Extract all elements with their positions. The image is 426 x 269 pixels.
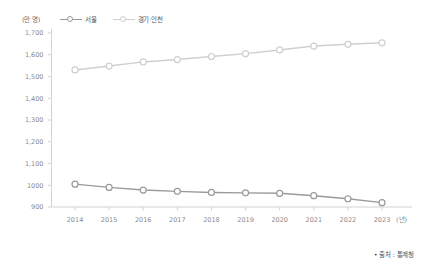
- data-point-marker: [311, 193, 317, 199]
- x-axis-unit: (년): [396, 215, 407, 224]
- x-tick-label: 2021: [306, 216, 323, 224]
- data-point-marker: [208, 189, 214, 195]
- data-point-marker: [277, 47, 283, 53]
- data-point-marker: [379, 200, 385, 206]
- x-tick-label: 2018: [203, 216, 220, 224]
- x-tick-label: 2022: [340, 216, 357, 224]
- x-axis-unit-label: (년): [396, 215, 407, 224]
- x-tick-label: 2020: [271, 216, 288, 224]
- x-tick-marks: [75, 207, 382, 211]
- data-point-marker: [106, 184, 112, 190]
- data-point-marker: [106, 63, 112, 69]
- plot-area: 1,7001,6001,5001,4001,3001,2001,10010009…: [0, 0, 426, 269]
- data-point-marker: [174, 188, 180, 194]
- y-tick-label: 1,400: [25, 95, 44, 103]
- y-tick-label: 1,200: [25, 138, 44, 146]
- data-point-marker: [174, 57, 180, 63]
- population-line-chart: (만 명) 서울 경기·인천 1,7001,6001,5001,4001,300…: [0, 0, 426, 269]
- series-line: [75, 43, 382, 70]
- y-tick-label: 1,100: [25, 160, 44, 168]
- y-tick-label: 1,700: [25, 29, 44, 37]
- data-point-marker: [345, 41, 351, 47]
- data-point-marker: [208, 53, 214, 59]
- y-tick-labels: 1,7001,6001,5001,4001,3001,2001,10010009…: [25, 29, 44, 211]
- x-tick-label: 2015: [101, 216, 118, 224]
- data-point-marker: [243, 51, 249, 57]
- data-point-marker: [277, 190, 283, 196]
- data-point-marker: [140, 187, 146, 193]
- x-tick-label: 2014: [67, 216, 84, 224]
- x-tick-label: 2023: [374, 216, 391, 224]
- data-point-marker: [72, 67, 78, 73]
- data-point-marker: [72, 181, 78, 187]
- x-tick-label: 2017: [169, 216, 186, 224]
- source-note: • 출처 : 통계청: [374, 249, 414, 259]
- y-tick-marks: [48, 33, 52, 207]
- data-point-marker: [345, 196, 351, 202]
- series-lines: [75, 43, 382, 203]
- x-tick-label: 2019: [237, 216, 254, 224]
- y-tick-label: 1,300: [25, 116, 44, 124]
- y-tick-label: 1,600: [25, 51, 44, 59]
- data-point-marker: [243, 190, 249, 196]
- data-point-marker: [379, 40, 385, 46]
- y-tick-label: 1,500: [25, 73, 44, 81]
- x-tick-label: 2016: [135, 216, 152, 224]
- x-tick-labels: 2014201520162017201820192020202120222023: [67, 216, 391, 224]
- y-tick-label: 900: [31, 203, 43, 211]
- y-tick-label: 1000: [27, 182, 44, 190]
- data-point-marker: [140, 59, 146, 65]
- data-point-marker: [311, 43, 317, 49]
- series-line: [75, 184, 382, 202]
